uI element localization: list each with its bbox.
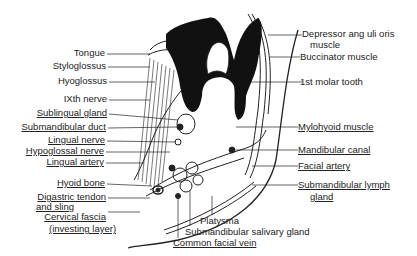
label-lymph-gland: gland (310, 192, 333, 202)
label-mylohyoid: Mylohyoid muscle (298, 122, 374, 132)
label-depressor-anguli-oris: Depressor ang uli oris (302, 29, 394, 39)
label-cervical-fascia: Cervical fascia (44, 212, 106, 222)
label-sublingual-gland: Sublingual gland (37, 108, 107, 118)
label-common-facial-vein: Common facial vein (173, 238, 256, 248)
label-tongue: Tongue (74, 48, 105, 58)
label-submandibular-salivary-gland: Submandibular salivary gland (185, 227, 310, 237)
label-ixth-nerve: IXth nerve (64, 94, 107, 104)
label-submandibular-duct: Submandibular duct (22, 122, 107, 132)
label-mandibular-canal: Mandibular canal (298, 145, 370, 155)
label-lingual-artery: Lingual artery (46, 157, 104, 167)
label-platysma: Platysma (200, 216, 239, 226)
label-hyoid-bone: Hyoid bone (57, 178, 105, 188)
label-buccinator: Buccinator muscle (300, 52, 378, 62)
label-hyoglossus: Hyoglossus (58, 76, 107, 86)
label-depressor-muscle: muscle (310, 40, 340, 50)
label-investing-layer: (investing layer) (49, 224, 116, 234)
label-1st-molar: 1st molar tooth (300, 77, 363, 87)
label-hypoglossal-nerve: Hypoglossal nerve (26, 146, 104, 156)
label-submandibular-lymph: Submandibular lymph (298, 180, 390, 190)
label-lingual-nerve: Lingual nerve (48, 135, 105, 145)
label-styloglossus: Styloglossus (53, 61, 106, 71)
label-facial-artery: Facial artery (298, 161, 350, 171)
